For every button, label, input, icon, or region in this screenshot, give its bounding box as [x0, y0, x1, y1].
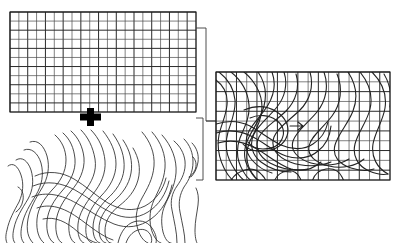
diagram-canvas [0, 0, 402, 243]
figure-root [0, 0, 402, 243]
